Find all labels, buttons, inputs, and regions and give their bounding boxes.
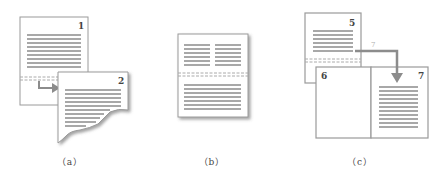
panel-a: 1 2 [20, 17, 128, 143]
panel-b [178, 34, 248, 117]
page-number-7: 7 [418, 71, 424, 81]
caption-c: （c） [330, 155, 390, 168]
caption-a: （a） [40, 155, 100, 168]
single-column-text-lines [184, 85, 241, 109]
caption-b: （b） [182, 155, 242, 168]
page-1-text-lines [27, 35, 81, 67]
arrow-label: 7 [371, 41, 375, 49]
page-number-6: 6 [321, 71, 327, 81]
page-number-2: 2 [118, 76, 124, 86]
panel-c: 5 6 7 7 [305, 13, 428, 138]
page-number-5: 5 [349, 18, 355, 28]
page-number-1: 1 [78, 21, 84, 31]
